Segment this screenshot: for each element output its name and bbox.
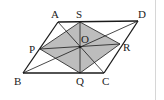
label-a: A	[51, 8, 59, 20]
label-o: O	[81, 33, 89, 45]
page-border	[155, 0, 156, 100]
geometry-diagram: ASDPORBQC	[0, 0, 164, 100]
label-q: Q	[76, 75, 84, 87]
label-s: S	[76, 8, 82, 20]
label-b: B	[14, 75, 21, 87]
label-d: D	[138, 8, 146, 20]
label-p: P	[29, 43, 35, 55]
label-c: C	[102, 75, 109, 87]
segment-ad	[58, 21, 138, 22]
center-point-o	[79, 46, 82, 49]
label-r: R	[123, 41, 131, 53]
